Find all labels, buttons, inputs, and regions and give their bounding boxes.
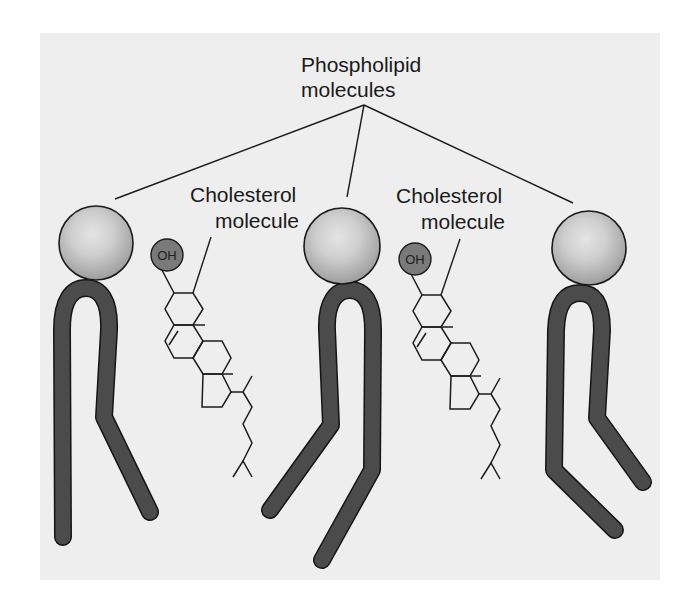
membrane-diagram: Phospholipid molecules Cholesterol molec… — [0, 0, 691, 615]
phospholipid-left-head — [59, 206, 133, 280]
cholesterol-right-label-line2: molecule — [421, 210, 505, 233]
cholesterol-right-label-line1: Cholesterol — [396, 184, 502, 207]
phospholipid-label-line1: Phospholipid — [301, 53, 421, 76]
cholesterol-left-label-line1: Cholesterol — [190, 183, 296, 206]
phospholipid-label-line2: molecules — [301, 78, 396, 101]
cholesterol-left-oh-text: OH — [157, 248, 177, 263]
cholesterol-right-oh-text: OH — [405, 252, 425, 267]
phospholipid-middle-head — [304, 208, 380, 284]
cholesterol-left-label-line2: molecule — [215, 209, 299, 232]
phospholipid-right-head — [552, 211, 626, 285]
